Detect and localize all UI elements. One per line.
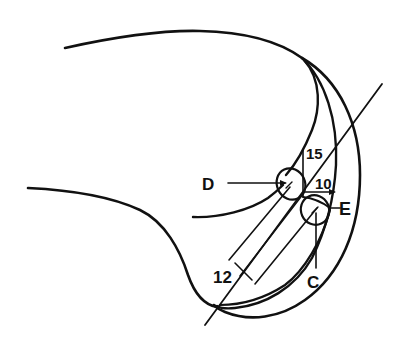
diagonal-axis-line xyxy=(205,84,382,325)
upper-outline-curve xyxy=(65,31,302,58)
label-12: 12 xyxy=(213,268,232,287)
lower-outline-curve xyxy=(28,188,217,307)
label-15: 15 xyxy=(306,145,323,162)
label-10: 10 xyxy=(315,175,332,192)
label-e: E xyxy=(339,199,351,219)
label-d: D xyxy=(202,175,214,194)
diagram-canvas: D 15 10 E C 12 xyxy=(0,0,403,349)
label-c: C xyxy=(307,273,319,292)
